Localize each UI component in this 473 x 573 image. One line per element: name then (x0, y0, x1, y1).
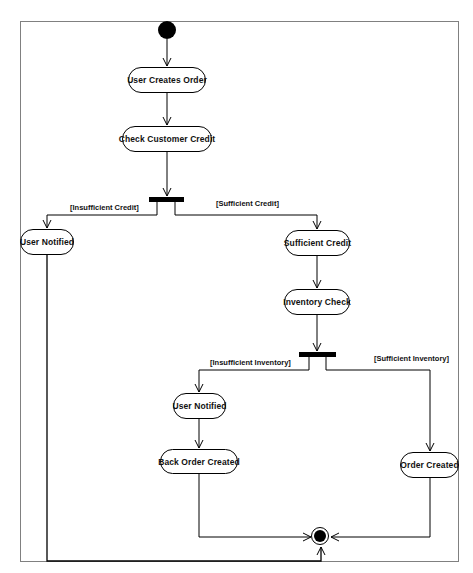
guard-sufficient-credit: [Sufficient Credit] (216, 199, 279, 208)
fork-bar-credit[interactable] (149, 197, 184, 202)
initial-node[interactable] (158, 21, 176, 39)
activity-label: Inventory Check (283, 297, 351, 307)
fork-bar-inventory[interactable] (299, 352, 336, 357)
activity-sufficient-credit[interactable]: Sufficient Credit (285, 230, 350, 256)
flow-sufficient-inventory (326, 357, 430, 451)
guard-sufficient-inventory: [Sufficient Inventory] (374, 354, 449, 363)
activity-label: User Creates Order (127, 75, 207, 85)
activity-label: Sufficient Credit (284, 238, 351, 248)
flow-connectors (0, 0, 473, 573)
activity-user-creates-order[interactable]: User Creates Order (128, 67, 206, 93)
activity-check-customer-credit[interactable]: Check Customer Credit (122, 126, 212, 152)
final-node[interactable] (311, 527, 329, 545)
activity-label: User Notified (172, 401, 226, 411)
final-node-core (314, 530, 326, 542)
activity-user-notified-inventory[interactable]: User Notified (173, 393, 226, 419)
flow-order-created-to-end (331, 478, 430, 537)
activity-label: User Notified (20, 237, 74, 247)
guard-insufficient-credit: [Insufficient Credit] (70, 203, 139, 212)
guard-insufficient-inventory: [Insufficient Inventory] (210, 358, 291, 367)
activity-inventory-check[interactable]: Inventory Check (284, 289, 350, 315)
activity-back-order-created[interactable]: Back Order Created (160, 449, 238, 474)
activity-label: Back Order Created (158, 457, 240, 467)
activity-user-notified-credit[interactable]: User Notified (20, 229, 74, 255)
flow-back-order-to-end (199, 474, 311, 537)
activity-order-created[interactable]: Order Created (400, 452, 459, 478)
activity-label: Order Created (400, 460, 458, 470)
activity-label: Check Customer Credit (119, 134, 216, 144)
